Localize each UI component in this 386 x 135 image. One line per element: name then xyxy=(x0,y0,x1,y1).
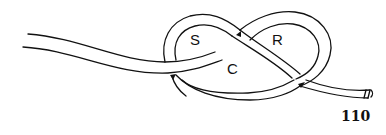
crossing-shadow xyxy=(236,31,241,37)
rope-working-end xyxy=(300,80,373,98)
rope-diagonal xyxy=(232,30,300,78)
label-s: S xyxy=(190,31,200,48)
rope-right-loop xyxy=(240,12,331,86)
rope-bottom-loop xyxy=(172,75,300,100)
rope-left-loop xyxy=(164,14,240,62)
knot-diagram: S C R xyxy=(0,0,386,135)
figure-number: 110 xyxy=(341,108,370,124)
crossing-shadow xyxy=(170,74,176,80)
label-r: R xyxy=(272,31,283,48)
label-c: C xyxy=(227,60,238,77)
